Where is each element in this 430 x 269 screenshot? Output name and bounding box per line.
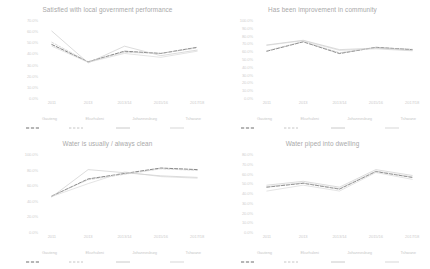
plot-canvas-2 <box>40 154 209 232</box>
legend-label: Gauteng <box>42 116 57 121</box>
chart-panel-improvement-community: Has been improvement in community 100.0%… <box>215 0 430 134</box>
plot-canvas-3 <box>255 154 424 232</box>
plot-area-wrapper: 100.0%80.0%60.0%40.0%20.0%0.0% 201120132… <box>0 154 211 269</box>
x-tick-label: 2013 <box>299 234 308 239</box>
legend-swatch-icon <box>170 250 184 254</box>
y-tick-label: 70.0% <box>242 161 253 166</box>
legend-label: Johannesburg <box>132 116 157 121</box>
legend-item-tshwane[interactable]: Tshwane <box>170 250 201 255</box>
y-tick-label: 10.0% <box>242 220 253 225</box>
legend-swatch-icon <box>116 250 130 254</box>
legend-swatch-icon <box>170 116 184 120</box>
legend-swatch-icon <box>284 116 298 120</box>
x-tick-label: 2013/14 <box>332 234 346 239</box>
chart-title: Water is usually / always clean <box>0 140 215 147</box>
legend-item-gauteng[interactable]: Gauteng <box>26 250 57 255</box>
legend-item-gauteng[interactable]: Gauteng <box>241 116 272 121</box>
x-tick-label: 2013/14 <box>332 100 346 105</box>
x-tick-label: 2015/16 <box>369 100 383 105</box>
y-tick-label: 20.0% <box>27 214 38 219</box>
legend-swatch-icon <box>331 250 345 254</box>
y-tick-label: 40.0% <box>27 51 38 56</box>
x-tick-label: 2011 <box>48 100 56 105</box>
x-tick-label: 2017/18 <box>405 100 419 105</box>
legend-swatch-icon <box>26 250 40 254</box>
y-tick-label: 30.0% <box>242 72 253 77</box>
legend-item-ekurhuleni[interactable]: Ekurhuleni <box>69 250 103 255</box>
y-axis-1: 100.0%90.0%80.0%70.0%60.0%50.0%40.0%30.0… <box>219 20 253 98</box>
y-tick-label: 30.0% <box>27 62 38 67</box>
legend-item-johannesburg[interactable]: Johannesburg <box>331 250 372 255</box>
legend-2: GautengEkurhuleniJohannesburgTshwane <box>12 246 207 258</box>
x-tick-label: 2017/18 <box>405 234 419 239</box>
chart-panel-satisfied-local-government: Satisfied with local government performa… <box>0 0 215 134</box>
y-tick-label: 0.0% <box>244 96 253 101</box>
y-axis-0: 70.0%60.0%50.0%40.0%30.0%20.0%10.0%0.0% <box>4 20 38 98</box>
series-line-johannesburg <box>52 31 197 63</box>
y-tick-label: 70.0% <box>242 41 253 46</box>
legend-item-gauteng[interactable]: Gauteng <box>26 116 57 121</box>
x-tick-label: 2017/18 <box>190 234 204 239</box>
line-series-svg-1 <box>255 20 424 98</box>
series-line-gauteng <box>267 42 412 54</box>
legend-swatch-icon <box>69 250 83 254</box>
legend-label: Tshwane <box>401 250 416 255</box>
x-tick-label: 2013/14 <box>117 100 131 105</box>
x-tick-label: 2013 <box>84 234 93 239</box>
y-tick-label: 50.0% <box>242 181 253 186</box>
y-tick-label: 50.0% <box>27 40 38 45</box>
y-tick-label: 10.0% <box>242 88 253 93</box>
legend-label: Johannesburg <box>132 250 157 255</box>
plot-area-wrapper: 80.0%70.0%60.0%50.0%40.0%30.0%20.0%10.0%… <box>215 154 426 269</box>
y-tick-label: 40.0% <box>242 191 253 196</box>
legend-item-ekurhuleni[interactable]: Ekurhuleni <box>284 116 318 121</box>
x-axis-0: 201120132013/142015/162017/18 <box>40 100 209 110</box>
legend-swatch-icon <box>241 250 255 254</box>
chart-title: Water piped into dwelling <box>215 140 430 147</box>
y-tick-label: 0.0% <box>29 230 38 235</box>
y-tick-label: 60.0% <box>242 171 253 176</box>
legend-swatch-icon <box>69 116 83 120</box>
y-tick-label: 80.0% <box>242 152 253 157</box>
legend-item-ekurhuleni[interactable]: Ekurhuleni <box>284 250 318 255</box>
y-tick-label: 50.0% <box>242 57 253 62</box>
y-tick-label: 100.0% <box>240 18 253 23</box>
x-tick-label: 2013 <box>84 100 93 105</box>
legend-0: GautengEkurhuleniJohannesburgTshwane <box>12 112 207 124</box>
y-tick-label: 20.0% <box>242 210 253 215</box>
legend-swatch-icon <box>26 116 40 120</box>
legend-item-tshwane[interactable]: Tshwane <box>385 250 416 255</box>
series-line-gauteng <box>267 172 412 190</box>
series-line-tshwane <box>267 173 412 192</box>
legend-item-johannesburg[interactable]: Johannesburg <box>116 116 157 121</box>
y-tick-label: 30.0% <box>242 200 253 205</box>
legend-item-gauteng[interactable]: Gauteng <box>241 250 272 255</box>
y-tick-label: 60.0% <box>27 29 38 34</box>
chart-title: Has been improvement in community <box>215 6 430 13</box>
x-tick-label: 2013/14 <box>117 234 131 239</box>
legend-item-tshwane[interactable]: Tshwane <box>385 116 416 121</box>
legend-1: GautengEkurhuleniJohannesburgTshwane <box>227 112 422 124</box>
legend-swatch-icon <box>284 250 298 254</box>
y-tick-label: 80.0% <box>27 167 38 172</box>
legend-item-johannesburg[interactable]: Johannesburg <box>331 116 372 121</box>
chart-grid: Satisfied with local government performa… <box>0 0 430 269</box>
x-tick-label: 2011 <box>263 100 271 105</box>
y-tick-label: 20.0% <box>242 80 253 85</box>
x-tick-label: 2015/16 <box>154 234 168 239</box>
legend-label: Ekurhuleni <box>300 250 318 255</box>
legend-item-johannesburg[interactable]: Johannesburg <box>116 250 157 255</box>
plot-canvas-0 <box>40 20 209 98</box>
legend-item-tshwane[interactable]: Tshwane <box>170 116 201 121</box>
legend-label: Tshwane <box>401 116 416 121</box>
x-axis-3: 201120132013/142015/162017/18 <box>255 234 424 244</box>
series-line-tshwane <box>52 172 197 197</box>
y-tick-label: 60.0% <box>27 183 38 188</box>
legend-label: Ekurhuleni <box>85 116 103 121</box>
y-tick-label: 60.0% <box>242 49 253 54</box>
legend-item-ekurhuleni[interactable]: Ekurhuleni <box>69 116 103 121</box>
legend-3: GautengEkurhuleniJohannesburgTshwane <box>227 246 422 258</box>
legend-label: Gauteng <box>42 250 57 255</box>
y-tick-label: 90.0% <box>242 25 253 30</box>
line-series-svg-2 <box>40 154 209 232</box>
